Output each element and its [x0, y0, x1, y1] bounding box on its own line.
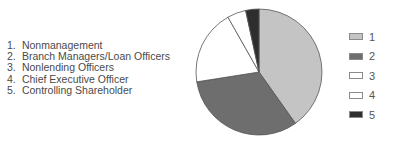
legend-label: 2	[369, 50, 375, 62]
category-key: 1. Nonmanagement 2. Branch Managers/Loan…	[7, 40, 170, 96]
legend-label: 5	[369, 109, 375, 121]
legend-item-5: 5	[349, 105, 375, 125]
key-item-5: 5. Controlling Shareholder	[7, 85, 170, 96]
key-label: Chief Executive Officer	[22, 73, 129, 85]
legend-label: 3	[369, 70, 375, 82]
key-number: 5.	[7, 85, 19, 96]
legend-swatch	[349, 53, 363, 60]
key-label: Branch Managers/Loan Officers	[22, 50, 170, 62]
legend-swatch	[349, 92, 363, 99]
key-label: Nonlending Officers	[22, 61, 114, 73]
legend-item-1: 1	[349, 27, 375, 47]
legend-label: 4	[369, 89, 375, 101]
legend-swatch	[349, 33, 363, 40]
pie-chart	[194, 7, 324, 137]
key-label: Controlling Shareholder	[22, 84, 132, 96]
legend-item-3: 3	[349, 66, 375, 86]
legend-item-2: 2	[349, 47, 375, 67]
legend-swatch	[349, 111, 363, 118]
key-label: Nonmanagement	[22, 39, 103, 51]
legend-item-4: 4	[349, 86, 375, 106]
legend-label: 1	[369, 31, 375, 43]
legend-swatch	[349, 72, 363, 79]
key-number: 3.	[7, 62, 19, 73]
legend: 1 2 3 4 5	[349, 27, 375, 125]
